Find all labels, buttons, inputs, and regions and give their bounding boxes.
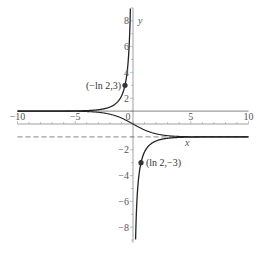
x-tick-label: −10 — [10, 111, 26, 122]
y-tick-label: −2 — [118, 144, 129, 155]
y-tick-label: 4 — [124, 67, 129, 78]
point-label: (ln 2,−3) — [146, 157, 181, 169]
x-tick-label: 0 — [126, 111, 131, 122]
y-tick-label: −4 — [118, 170, 129, 181]
x-tick-label: −5 — [70, 111, 81, 122]
marked-point — [138, 160, 143, 165]
axes — [18, 8, 249, 243]
y-tick-label: 8 — [124, 15, 129, 26]
y-tick-label: −8 — [118, 222, 129, 233]
x-axis-label: x — [184, 137, 190, 148]
curve-left-branch — [18, 8, 131, 111]
marked-point — [122, 83, 127, 88]
point-label: (−ln 2,3) — [86, 80, 121, 92]
function-plot: −10−50510−8−6−4−22468yx(−ln 2,3)(ln 2,−3… — [0, 0, 260, 254]
x-tick-label: 5 — [188, 111, 193, 122]
y-tick-label: 6 — [124, 41, 129, 52]
curve-right-branch — [136, 137, 249, 240]
y-tick-label: −6 — [118, 196, 129, 207]
y-tick-label: 2 — [124, 93, 129, 104]
x-tick-label: 10 — [244, 111, 254, 122]
y-axis-label: y — [137, 15, 143, 26]
